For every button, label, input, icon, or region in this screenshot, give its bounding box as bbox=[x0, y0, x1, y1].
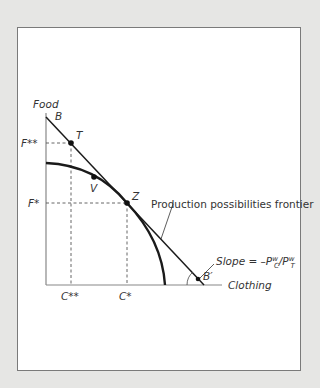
label-v: V bbox=[90, 182, 98, 194]
point-b-prime bbox=[196, 277, 201, 282]
slope-label: Slope = –PwC/PwT bbox=[216, 255, 295, 270]
point-v bbox=[91, 174, 97, 180]
slope-angle-arc bbox=[187, 272, 193, 285]
ppf-diagram: Food B T V Z B′ F** F* C** C* Clothing P… bbox=[0, 0, 320, 388]
y-axis-label: Food bbox=[33, 98, 59, 110]
label-z: Z bbox=[131, 190, 140, 202]
tick-c-star-star: C** bbox=[61, 290, 79, 302]
tick-f-star-star: F** bbox=[21, 137, 38, 149]
point-z bbox=[124, 200, 130, 206]
label-t: T bbox=[76, 129, 84, 141]
label-b-prime: B′ bbox=[203, 270, 213, 282]
ppf-label: Production possibilities frontier bbox=[151, 198, 314, 210]
label-b: B bbox=[55, 110, 62, 122]
tick-c-star: C* bbox=[119, 290, 132, 302]
x-axis-label: Clothing bbox=[228, 279, 272, 291]
tick-f-star: F* bbox=[28, 197, 39, 209]
point-t bbox=[68, 140, 74, 146]
